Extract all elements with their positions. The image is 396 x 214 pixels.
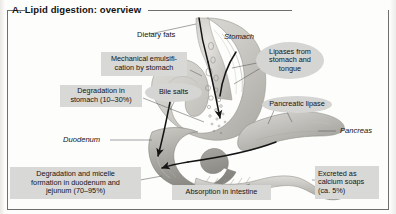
anatomy-label-stomach: Stomach	[224, 32, 254, 41]
callout-degradation-micelle-text: Degradation and micelleformation in duod…	[13, 170, 138, 196]
anatomy-label-duodenum: Duodenum	[63, 135, 100, 144]
callout-mechanical-emulsification: Mechanical emulsifi-cation by stomach	[101, 52, 187, 76]
callout-mechanical-emulsification-text: Mechanical emulsifi-cation by stomach	[104, 55, 184, 72]
callout-excreted-text: Excreted ascalcium soaps(ca. 5%)	[318, 170, 376, 196]
callout-absorption-text: Absorption in intestine	[175, 188, 268, 197]
callout-pancreatic-lipase: Pancreatic lipase	[262, 96, 332, 113]
callout-lipases: Lipases fromstomach andtongue	[256, 42, 324, 79]
callout-lipases-text: Lipases fromstomach andtongue	[256, 48, 324, 74]
anatomy-label-pancreas: Pancreas	[340, 126, 372, 135]
callout-pancreatic-lipase-text: Pancreatic lipase	[262, 100, 332, 109]
callout-degradation-stomach: Degradation instomach (10–30%)	[60, 85, 142, 107]
callout-excreted: Excreted ascalcium soaps(ca. 5%)	[315, 166, 379, 199]
callout-degradation-micelle: Degradation and micelleformation in duod…	[10, 167, 141, 199]
callout-bile-salts-text: Bile salts	[145, 88, 202, 97]
callout-absorption: Absorption in intestine	[172, 185, 271, 200]
label-dietary-fats: Dietary fats	[137, 30, 175, 39]
callout-degradation-stomach-text: Degradation instomach (10–30%)	[63, 87, 139, 104]
figure-panel: A.Lipid digestion: overview	[0, 0, 396, 214]
callout-bile-salts: Bile salts	[145, 83, 202, 102]
